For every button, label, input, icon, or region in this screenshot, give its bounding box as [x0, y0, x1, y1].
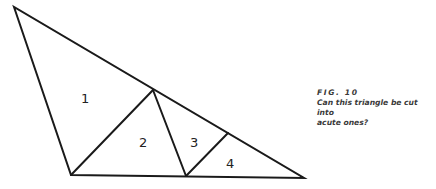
caption-line-2: acute ones?: [317, 118, 436, 128]
outer-triangle: [14, 7, 304, 178]
cut-line-b: [153, 90, 186, 176]
region-label-2: 2: [139, 135, 147, 150]
region-label-3: 3: [190, 135, 198, 150]
figure-number: FIG. 10: [317, 88, 436, 98]
region-label-4: 4: [226, 156, 234, 171]
region-label-1: 1: [81, 91, 89, 106]
figure-caption: FIG. 10 Can this triangle be cut into ac…: [317, 88, 436, 128]
caption-line-1: Can this triangle be cut into: [317, 98, 436, 118]
